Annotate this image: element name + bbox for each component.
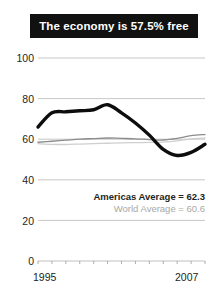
y-tick-40: 40 (8, 175, 34, 185)
y-tick-100: 100 (8, 53, 34, 63)
y-tick-0: 0 (8, 256, 34, 266)
y-tick-60: 60 (8, 134, 34, 144)
series-line-0 (38, 105, 205, 156)
gridlines (38, 58, 205, 261)
y-tick-20: 20 (8, 216, 34, 226)
x-tick-1995: 1995 (33, 272, 56, 282)
legend-americas-average: Americas Average = 62.3 (93, 191, 205, 202)
y-tick-80: 80 (8, 94, 34, 104)
series-lines (38, 105, 205, 156)
x-axis (38, 261, 205, 264)
chart-container: The economy is 57.5% free 100 80 60 40 2… (0, 0, 215, 307)
legend-world-average: World Average = 60.6 (114, 203, 205, 214)
x-tick-2007: 2007 (175, 272, 198, 282)
